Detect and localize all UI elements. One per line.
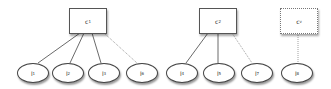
leaf-node-l1: l1 (17, 63, 49, 83)
node-subscript: v (299, 19, 301, 24)
edge-c1-l1 (38, 33, 80, 63)
edge-c1-l2 (70, 33, 84, 63)
node-subscript: 1 (88, 19, 91, 24)
node-subscript: 6 (142, 71, 145, 76)
leaf-node-l3: l3 (88, 63, 120, 83)
cluster-node-c2: c2 (199, 8, 237, 34)
node-subscript: 5 (219, 71, 222, 76)
edge-c1-l3 (92, 33, 101, 63)
edge-c2-l4 (186, 33, 208, 63)
leaf-node-l8: l8 (281, 63, 313, 83)
leaf-node-l2: l2 (52, 63, 84, 83)
node-subscript: 8 (297, 71, 300, 76)
cluster-node-cv: cv (280, 8, 318, 34)
leaf-node-l6: l6 (126, 63, 158, 83)
node-subscript: 1 (33, 71, 36, 76)
edge-c1-l6 (104, 33, 137, 63)
leaf-node-l5: l5 (203, 63, 235, 83)
node-subscript: 4 (182, 71, 185, 76)
node-subscript: 7 (257, 71, 260, 76)
node-subscript: 3 (104, 71, 107, 76)
cluster-node-c1: c1 (69, 8, 107, 34)
edge-c2-l7 (232, 33, 252, 63)
node-subscript: 2 (68, 71, 71, 76)
leaf-node-l4: l4 (166, 63, 198, 83)
node-subscript: 2 (218, 19, 221, 24)
leaf-node-l7: l7 (241, 63, 273, 83)
